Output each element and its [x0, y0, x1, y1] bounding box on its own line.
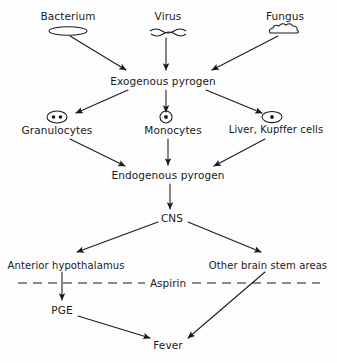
- bacterium-rod-icon: [49, 27, 87, 35]
- granulocyte-nucleus-left: [52, 115, 56, 119]
- edge-exogenous-pyrogen-to-liver-kupffer: [206, 90, 262, 113]
- node-label-fever: Fever: [153, 340, 182, 351]
- node-label-exogenous-pyrogen: Exogenous pyrogen: [110, 76, 216, 87]
- granulocyte-cell-icon: [47, 111, 67, 123]
- node-label-monocytes: Monocytes: [144, 125, 202, 136]
- node-label-cns: CNS: [161, 213, 183, 224]
- node-label-bacterium: Bacterium: [40, 11, 95, 22]
- organism-and-cell-glyphs: [47, 24, 299, 123]
- edge-cns-to-other-brain-stem: [188, 222, 261, 252]
- node-label-liver-kupffer-cells: Liver, Kupffer cells: [229, 125, 324, 135]
- node-label-pge: PGE: [51, 305, 72, 316]
- monocyte-nucleus: [164, 115, 168, 119]
- edge-pge-to-fever: [78, 316, 150, 338]
- node-label-anterior-hypothalamus: Anterior hypothalamus: [8, 261, 125, 271]
- node-label-fungus: Fungus: [266, 11, 304, 22]
- edge-bacterium-to-exogenous-pyrogen: [70, 36, 126, 70]
- edge-fungus-to-exogenous-pyrogen: [212, 36, 278, 70]
- kupffer-nucleus: [270, 115, 274, 119]
- fever-pathogenesis-diagram: Bacterium Virus Fungus Exogenous pyrogen…: [0, 0, 337, 363]
- edge-cns-to-anterior-hypothalamus: [77, 222, 158, 252]
- edge-liver-kupffer-to-endogenous-pyrogen: [214, 139, 265, 166]
- edge-granulocytes-to-endogenous-pyrogen: [70, 139, 125, 166]
- edge-other-brain-stem-to-fever: [188, 272, 265, 338]
- node-label-other-brain-stem-areas: Other brain stem areas: [209, 261, 327, 271]
- granulocyte-nucleus-right: [59, 115, 63, 119]
- fungus-cloud-icon: [269, 24, 298, 33]
- node-label-granulocytes: Granulocytes: [22, 125, 93, 136]
- edge-exogenous-pyrogen-to-granulocytes: [76, 90, 128, 113]
- node-label-endogenous-pyrogen: Endogenous pyrogen: [111, 170, 224, 181]
- node-label-virus: Virus: [155, 11, 182, 22]
- inhibitor-label-aspirin: Aspirin: [147, 278, 189, 289]
